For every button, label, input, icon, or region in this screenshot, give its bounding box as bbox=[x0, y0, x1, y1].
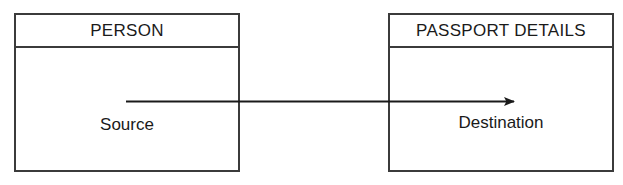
entity-header-passport-details: PASSPORT DETAILS bbox=[390, 15, 612, 48]
entity-box-person[interactable]: PERSON Source bbox=[14, 13, 240, 172]
diagram-canvas: PERSON Source PASSPORT DETAILS Destinati… bbox=[0, 0, 623, 185]
entity-header-label: PERSON bbox=[90, 22, 164, 39]
entity-role-label-destination: Destination bbox=[390, 114, 612, 131]
entity-body-person: Source bbox=[16, 48, 238, 170]
entity-role-label-source: Source bbox=[16, 116, 238, 133]
entity-box-passport-details[interactable]: PASSPORT DETAILS Destination bbox=[388, 13, 614, 172]
entity-body-passport-details: Destination bbox=[390, 48, 612, 170]
entity-header-label: PASSPORT DETAILS bbox=[416, 22, 586, 39]
entity-header-person: PERSON bbox=[16, 15, 238, 48]
